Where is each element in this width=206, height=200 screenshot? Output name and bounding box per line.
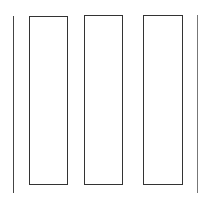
diagram-canvas [0, 0, 206, 200]
rectangle-3 [143, 15, 183, 185]
rectangle-1 [29, 16, 68, 185]
rectangle-2 [84, 15, 123, 185]
left-vertical-line [13, 16, 14, 193]
right-vertical-line [197, 15, 198, 193]
